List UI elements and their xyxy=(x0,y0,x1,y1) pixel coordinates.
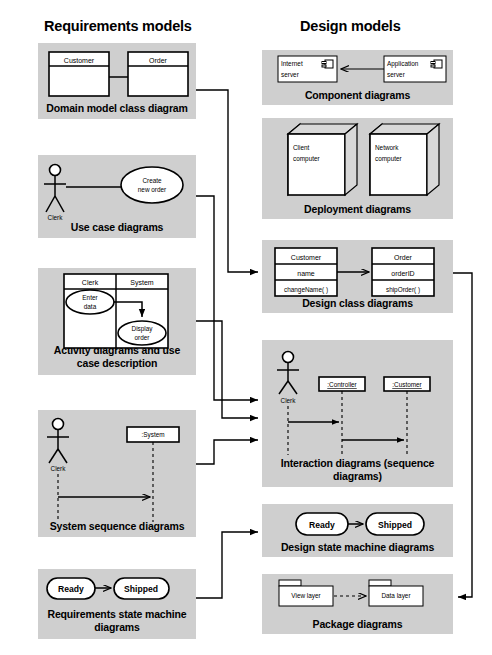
req-state-shipped-label: Shipped xyxy=(124,584,158,594)
domain-class-order-label: Order xyxy=(149,57,168,64)
deployment-node-client: Client computer xyxy=(288,124,357,195)
activity-action-display-line1: Display xyxy=(132,325,154,333)
use-case-label-line1: Create xyxy=(142,177,162,184)
connector-usecase-to-interaction xyxy=(196,196,258,400)
activity-action-enter-line2: data xyxy=(84,303,97,310)
actor-clerk-icon xyxy=(44,165,66,213)
connector-domain-to-design-class xyxy=(196,90,258,272)
uml-models-diagram: Requirements models Design models Domain… xyxy=(0,0,492,655)
interaction-diagram-shapes: Clerk :Controller :Customer xyxy=(277,352,430,456)
package-diagram-shapes: View layer Data layer xyxy=(279,580,423,606)
deployment-node-client-line1: Client xyxy=(293,144,310,151)
domain-class-customer-label: Customer xyxy=(64,57,95,64)
deployment-node-network-line1: Network xyxy=(375,144,399,151)
use-case-diagram-shapes: Clerk Create new order xyxy=(44,165,183,222)
deployment-diagram-shapes: Client computer Network computer xyxy=(288,124,439,195)
package-view-layer-label: View layer xyxy=(291,592,321,600)
design-class-customer-attribute: name xyxy=(297,270,315,277)
ssd-actor-clerk-icon xyxy=(47,419,69,464)
design-state-machine-shapes: Ready Shipped xyxy=(296,513,424,535)
deployment-node-network-line2: computer xyxy=(375,155,403,163)
design-state-shipped-label: Shipped xyxy=(378,520,412,530)
interaction-actor-clerk-icon xyxy=(277,352,299,395)
ssd-lifeline-system-label: :System xyxy=(141,431,164,439)
component-internet-line2: server xyxy=(281,71,300,78)
system-sequence-diagram-shapes: Clerk :System xyxy=(47,419,179,523)
requirements-state-machine-shapes: Ready Shipped xyxy=(47,578,169,599)
component-icon-internet xyxy=(322,60,333,68)
design-class-order-name: Order xyxy=(394,254,413,261)
design-class-customer-method: changeName( ) xyxy=(284,286,328,294)
diagram-canvas: Customer Order Clerk Create new order xyxy=(0,0,492,655)
package-data-layer: Data layer xyxy=(369,580,423,606)
interaction-lifeline-customer-label: :Customer xyxy=(392,381,422,388)
activity-action-display-line2: order xyxy=(135,334,151,341)
activity-swimlane-system-label: System xyxy=(130,279,154,287)
connector-reqstate-to-designstate xyxy=(196,532,258,598)
package-data-layer-label: Data layer xyxy=(381,592,411,600)
activity-diagram-shapes: Clerk System Enter data Display order xyxy=(64,274,168,348)
activity-swimlane-clerk-label: Clerk xyxy=(82,279,99,286)
design-state-ready-label: Ready xyxy=(309,520,335,530)
interaction-actor-label: Clerk xyxy=(281,397,297,404)
component-diagram-shapes: Internet server Application server xyxy=(278,56,446,82)
domain-model-class-shapes: Customer Order xyxy=(49,52,188,96)
design-class-customer-name: Customer xyxy=(291,254,322,261)
component-icon-application xyxy=(431,60,442,68)
package-view-layer: View layer xyxy=(279,580,333,606)
activity-action-enter-line1: Enter xyxy=(82,294,98,301)
connector-ssd-to-interaction xyxy=(196,440,258,464)
component-application-line2: server xyxy=(387,71,406,78)
component-internet-line1: Internet xyxy=(281,60,303,67)
ssd-actor-label: Clerk xyxy=(51,465,67,472)
deployment-node-network: Network computer xyxy=(370,124,439,195)
interaction-lifeline-controller-label: :Controller xyxy=(327,381,357,388)
design-class-order-method: shipOrder( ) xyxy=(386,286,420,294)
connector-designclass-to-package xyxy=(453,273,472,597)
component-application-line1: Application xyxy=(387,60,419,68)
connector-activity-to-interaction xyxy=(196,321,258,418)
use-case-actor-label: Clerk xyxy=(48,214,64,221)
deployment-node-client-line2: computer xyxy=(293,155,321,163)
design-class-diagram-shapes: Customer name changeName( ) Order orderI… xyxy=(275,248,434,296)
req-state-ready-label: Ready xyxy=(58,584,84,594)
design-class-order-attribute: orderID xyxy=(391,270,414,277)
use-case-label-line2: new order xyxy=(138,186,167,193)
